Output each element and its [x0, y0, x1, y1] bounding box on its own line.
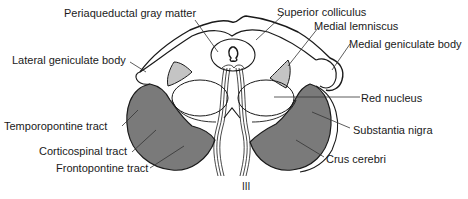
label-medial-lemniscus: Medial lemniscus	[314, 20, 398, 32]
label-superior-colliculus: Superior colliculus	[277, 6, 366, 18]
label-red-nucleus: Red nucleus	[361, 92, 422, 104]
left-crus-cerebri	[127, 84, 215, 170]
label-frontopontine-tract: Frontopontine tract	[56, 162, 148, 174]
midbrain-diagram: Periaqueductal gray matter Superior coll…	[0, 0, 468, 199]
oculomotor-nerve-fibers	[214, 65, 250, 176]
left-medial-lemniscus	[167, 62, 192, 86]
label-corticospinal-tract: Corticospinal tract	[39, 145, 127, 157]
lateral-geniculate-outline	[136, 72, 150, 84]
label-substantia-nigra: Substantia nigra	[353, 124, 433, 136]
medial-geniculate-outline	[316, 59, 336, 88]
label-lateral-geniculate-body: Lateral geniculate body	[12, 54, 126, 66]
label-periaqueductal-gray-matter: Periaqueductal gray matter	[64, 7, 196, 19]
cerebral-aqueduct	[229, 47, 238, 61]
label-oculomotor-nerve: III	[242, 181, 250, 193]
right-medial-lemniscus	[270, 60, 290, 88]
label-medial-geniculate-body: Medial geniculate body	[349, 38, 462, 50]
right-red-nucleus	[238, 80, 294, 116]
label-crus-cerebri: Crus cerebri	[326, 153, 386, 165]
label-temporopontine-tract: Temporopontine tract	[4, 120, 107, 132]
